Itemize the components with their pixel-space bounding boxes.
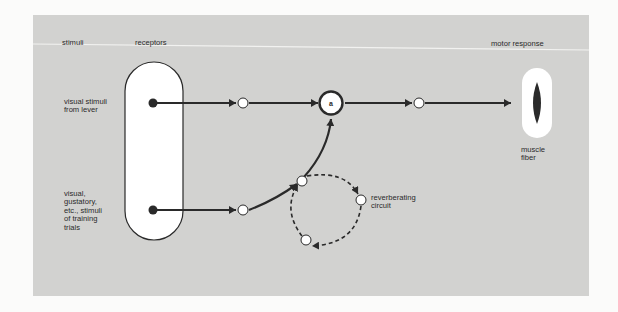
synapse-node-bottom-1 xyxy=(238,205,248,215)
circuit-node-bottom-left xyxy=(301,235,311,245)
circuit-node-right xyxy=(356,195,366,205)
header-motor-response: motor response xyxy=(491,40,544,48)
stimulus-label-bottom-line5: trials xyxy=(64,224,102,232)
header-stimuli: stimuli xyxy=(62,39,84,47)
association-neuron-label: a xyxy=(329,100,333,107)
synapse-node-top-1 xyxy=(238,98,248,108)
muscle-fiber-label-line2: fiber xyxy=(521,154,545,162)
circuit-arc-left xyxy=(291,184,302,236)
stimulus-label-top: visual stimuli from lever xyxy=(64,98,107,115)
muscle-fiber-label: muscle fiber xyxy=(521,146,545,163)
pathway-to-association xyxy=(304,119,331,177)
circuit-arc-bottom xyxy=(312,206,361,246)
synapse-node-top-2 xyxy=(414,98,424,108)
header-receptors: receptors xyxy=(135,39,167,47)
pathway-bottom-curve xyxy=(249,184,297,210)
stimulus-label-top-line2: from lever xyxy=(64,106,107,114)
stimulus-label-bottom: visual, gustatory, etc., stimuli of trai… xyxy=(64,190,102,232)
receptor-dot-top xyxy=(149,99,158,108)
circuit-label: reverberating circuit xyxy=(371,194,416,211)
circuit-arc-top-right xyxy=(307,175,358,194)
circuit-label-line2: circuit xyxy=(371,202,416,210)
circuit-node-junction xyxy=(297,176,307,186)
receptor-dot-bottom xyxy=(149,206,158,215)
